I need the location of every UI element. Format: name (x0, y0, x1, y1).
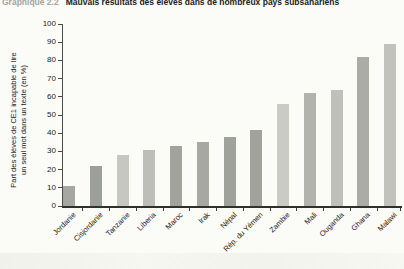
y-tick-label: 70 (40, 75, 56, 83)
y-tick-mark (58, 187, 62, 188)
y-axis-label-line1: Part des élèves de CE1 incapable de lire (9, 35, 19, 205)
y-tick-label: 0 (40, 202, 56, 210)
bar (170, 146, 182, 206)
y-tick-label: 40 (40, 129, 56, 137)
x-tick-mark (243, 208, 244, 211)
y-tick-mark (58, 42, 62, 43)
y-tick-mark (58, 24, 62, 25)
y-tick-label: 80 (40, 56, 56, 64)
y-tick-mark (58, 133, 62, 134)
y-axis-label: Part des élèves de CE1 incapable de lire… (9, 35, 33, 205)
bar (384, 44, 396, 206)
y-tick-label: 10 (40, 184, 56, 192)
bar (90, 166, 102, 206)
x-tick-mark (136, 208, 137, 211)
x-tick-mark (323, 208, 324, 211)
x-tick-mark (82, 208, 83, 211)
x-tick-mark (296, 208, 297, 211)
bar (143, 150, 155, 206)
scanned-chart-page: Graphique 2.2Mauvais résultats des élève… (0, 0, 404, 269)
y-tick-mark (58, 151, 62, 152)
y-axis-line (62, 24, 63, 206)
y-tick-label: 90 (40, 38, 56, 46)
y-tick-mark (58, 206, 62, 207)
y-tick-mark (58, 115, 62, 116)
y-tick-label: 50 (40, 111, 56, 119)
chart-number-label: Graphique 2.2 (2, 0, 59, 7)
y-axis-label-line2: un seul mot dans un texte (en %) (19, 35, 29, 205)
chart-header: Graphique 2.2Mauvais résultats des élève… (2, 0, 402, 8)
bar (250, 130, 262, 206)
bar (357, 57, 369, 206)
bar (304, 93, 316, 206)
y-tick-label: 100 (40, 20, 56, 28)
y-tick-label: 30 (40, 147, 56, 155)
y-tick-label: 60 (40, 93, 56, 101)
bar (331, 90, 343, 206)
y-tick-label: 20 (40, 166, 56, 174)
x-tick-mark (400, 208, 401, 211)
x-tick-mark (216, 208, 217, 211)
x-tick-mark (377, 208, 378, 211)
bar (277, 104, 289, 206)
y-tick-mark (58, 96, 62, 97)
x-tick-mark (270, 208, 271, 211)
x-tick-mark (189, 208, 190, 211)
x-tick-mark (163, 208, 164, 211)
x-tick-mark (350, 208, 351, 211)
x-category-label: Malawi (342, 211, 399, 268)
y-tick-mark (58, 60, 62, 61)
x-axis-line (62, 206, 402, 208)
bar (224, 137, 236, 206)
x-tick-mark (109, 208, 110, 211)
y-tick-mark (58, 78, 62, 79)
bar (197, 142, 209, 206)
y-tick-mark (58, 169, 62, 170)
chart-title: Mauvais résultats des élèves dans de nom… (66, 0, 340, 7)
bar (117, 155, 129, 206)
bar (63, 186, 75, 206)
